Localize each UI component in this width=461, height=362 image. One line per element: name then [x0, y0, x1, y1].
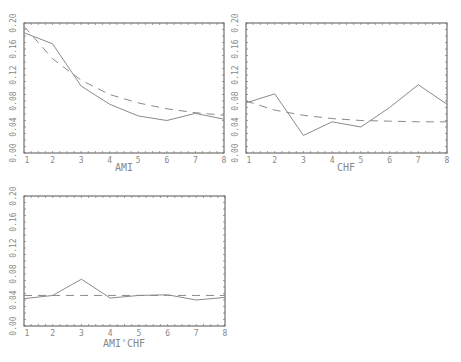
series-line-fitted: [24, 26, 224, 115]
x-axis-label-chf: CHF: [337, 162, 355, 173]
series-line-observed: [24, 33, 224, 121]
plot-frame: [24, 196, 225, 326]
x-axis-label-ami-chf: AMI'CHF: [103, 338, 145, 349]
x-tick-label: 7: [193, 156, 198, 165]
y-tick-label: 0.20: [9, 13, 18, 32]
y-tick-label: 0.12: [9, 238, 18, 257]
y-tick-label: 0.08: [9, 264, 18, 283]
x-tick-label: 1: [247, 156, 252, 165]
x-tick-label: 8: [445, 156, 450, 165]
y-tick-label: 0.12: [9, 65, 18, 84]
y-tick-label: 0.12: [231, 65, 240, 84]
x-tick-label: 1: [25, 156, 30, 165]
x-tick-label: 4: [330, 156, 335, 165]
chart-panel-ami-chf: 123456780.000.040.080.120.160.20: [9, 186, 228, 338]
x-tick-label: 3: [301, 156, 306, 165]
x-tick-label: 1: [25, 329, 30, 338]
y-tick-label: 0.00: [9, 316, 18, 335]
x-tick-label: 3: [79, 156, 84, 165]
series-line-fitted: [246, 101, 447, 122]
y-tick-label: 0.08: [231, 91, 240, 110]
x-tick-label: 2: [50, 329, 55, 338]
x-tick-label: 5: [358, 156, 363, 165]
x-tick-label: 8: [222, 156, 227, 165]
x-tick-label: 4: [107, 156, 112, 165]
y-tick-label: 0.16: [9, 39, 18, 58]
x-tick-label: 6: [164, 156, 169, 165]
x-tick-label: 2: [50, 156, 55, 165]
x-tick-label: 7: [194, 329, 199, 338]
x-tick-label: 6: [165, 329, 170, 338]
y-tick-label: 0.16: [231, 39, 240, 58]
y-tick-label: 0.20: [9, 186, 18, 205]
y-tick-label: 0.08: [9, 91, 18, 110]
x-tick-label: 5: [136, 156, 141, 165]
y-tick-label: 0.20: [231, 13, 240, 32]
chart-canvas: 123456780.000.040.080.120.160.20 1234567…: [0, 0, 461, 362]
x-tick-label: 2: [272, 156, 277, 165]
y-tick-label: 0.04: [231, 117, 240, 136]
y-tick-label: 0.00: [231, 143, 240, 162]
plot-frame: [24, 23, 224, 153]
chart-panel-ami: 123456780.000.040.080.120.160.20: [9, 13, 227, 165]
y-tick-label: 0.04: [9, 117, 18, 136]
x-tick-label: 5: [136, 329, 141, 338]
y-tick-label: 0.16: [9, 212, 18, 231]
chart-panel-chf: 123456780.000.040.080.120.160.20: [231, 13, 450, 165]
x-tick-label: 7: [416, 156, 421, 165]
x-tick-label: 8: [223, 329, 228, 338]
x-tick-label: 6: [387, 156, 392, 165]
series-line-observed: [24, 279, 225, 300]
y-tick-label: 0.04: [9, 290, 18, 309]
plot-frame: [246, 23, 447, 153]
x-tick-label: 3: [79, 329, 84, 338]
y-tick-label: 0.00: [9, 143, 18, 162]
x-tick-label: 4: [108, 329, 113, 338]
x-axis-label-ami: AMI: [115, 162, 133, 173]
